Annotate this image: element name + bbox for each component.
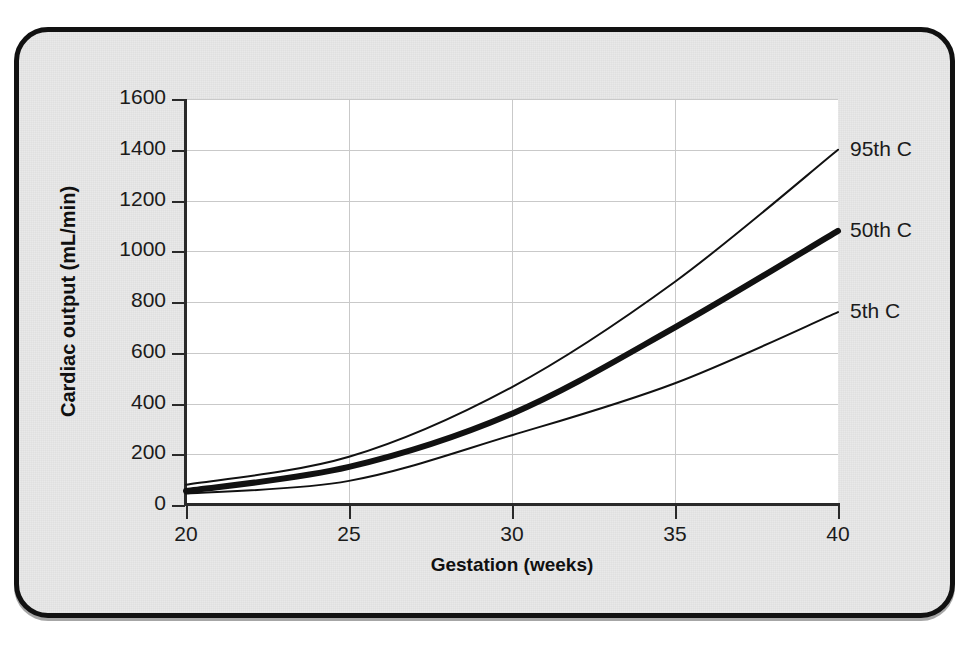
x-tick-label-40: 40	[808, 522, 868, 546]
y-tick-1000	[172, 251, 185, 253]
y-tick-400	[172, 404, 185, 406]
y-axis-title: Cardiac output (mL/min)	[57, 142, 80, 462]
curve-5th-c	[186, 312, 838, 493]
y-tick-1200	[172, 201, 185, 203]
y-tick-label-400: 400	[131, 390, 166, 414]
x-tick-label-30: 30	[482, 522, 542, 546]
series-curves	[186, 99, 838, 505]
x-axis-title: Gestation (weeks)	[186, 554, 838, 576]
curve-50th-c	[186, 231, 838, 491]
y-tick-0	[172, 505, 185, 507]
x-tick-30	[512, 505, 514, 519]
series-label-5th-c: 5th C	[850, 299, 900, 323]
y-tick-label-800: 800	[131, 288, 166, 312]
y-tick-200	[172, 454, 185, 456]
y-tick-label-1600: 1600	[119, 85, 166, 109]
y-tick-label-600: 600	[131, 339, 166, 363]
x-tick-20	[186, 505, 188, 519]
x-tick-25	[349, 505, 351, 519]
y-tick-label-200: 200	[131, 440, 166, 464]
y-tick-600	[172, 353, 185, 355]
y-tick-800	[172, 302, 185, 304]
y-tick-label-0: 0	[154, 491, 166, 515]
cardiac-output-chart: 02004006008001000120014001600 2025303540…	[0, 0, 971, 645]
y-tick-label-1200: 1200	[119, 187, 166, 211]
series-label-50th-c: 50th C	[850, 218, 912, 242]
series-label-95th-c: 95th C	[850, 137, 912, 161]
y-tick-1600	[172, 99, 185, 101]
y-tick-label-1400: 1400	[119, 136, 166, 160]
x-tick-label-25: 25	[319, 522, 379, 546]
x-tick-label-20: 20	[156, 522, 216, 546]
x-tick-35	[675, 505, 677, 519]
y-tick-label-1000: 1000	[119, 237, 166, 261]
y-tick-1400	[172, 150, 185, 152]
x-tick-40	[838, 505, 840, 519]
x-tick-label-35: 35	[645, 522, 705, 546]
